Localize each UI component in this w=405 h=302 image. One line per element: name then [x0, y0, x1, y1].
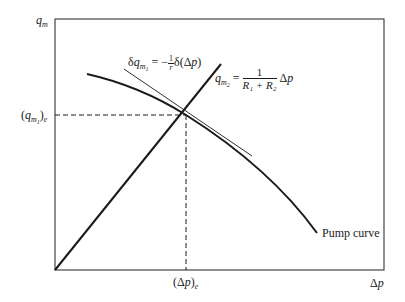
equilibrium-q-label: (qm1)e [21, 109, 47, 122]
system-line [55, 64, 221, 270]
pump-curve [87, 74, 317, 233]
tangent-equation: δqm1 = −1rδ(Δp) [128, 55, 201, 72]
diagram-canvas [0, 0, 405, 302]
x-axis-label: Δp [370, 277, 384, 289]
y-axis-label: qm [36, 14, 48, 26]
system-line-equation: qm2 = 1R₁ + R₂ Δp [215, 67, 293, 91]
equilibrium-dp-label: (Δp)e [173, 276, 198, 288]
pump-curve-label: Pump curve [322, 227, 380, 239]
